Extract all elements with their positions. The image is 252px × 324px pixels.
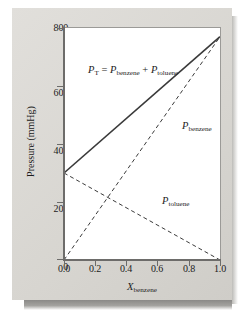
- annotation-toluene-curve-label: Ptoluene: [162, 195, 189, 208]
- data-lines-svg: [64, 28, 220, 260]
- benzene-label-subscript: benzene: [188, 125, 211, 133]
- x-tick-label-0.6: 0.6: [142, 263, 172, 274]
- equation-p-total-subscript: T: [94, 69, 98, 77]
- x-tick-label-0.2: 0.2: [80, 263, 110, 274]
- y-axis-title: Pressure (mmHg): [25, 82, 36, 202]
- figure-root: 0 200 400 600 800 Pressure (mmHg): [0, 0, 252, 324]
- x-axis-line: [63, 259, 221, 261]
- equation-plus: +: [142, 64, 148, 75]
- y-tick-mark-200: [57, 202, 64, 203]
- figure-shadow-bottom: [24, 299, 232, 310]
- x-axis-title: Xbenzene: [64, 281, 220, 294]
- x-tick-label-0.4: 0.4: [111, 263, 141, 274]
- equation-p-benzene-subscript: benzene: [116, 69, 139, 77]
- y-tick-mark-800: [57, 28, 64, 29]
- plot-border-right: [220, 27, 221, 261]
- series-line-toluene: [64, 173, 220, 260]
- y-axis-title-text: Pressure (mmHg): [25, 106, 36, 177]
- y-tick-mark-400: [57, 144, 64, 145]
- x-axis-title-subscript: benzene: [134, 286, 157, 294]
- annotation-equation: PT = Pbenzene + Ptoluene: [88, 64, 178, 77]
- equation-equals: =: [101, 64, 107, 75]
- series-line-total-pressure: [64, 37, 220, 173]
- x-tick-label-1.0: 1.0: [205, 263, 235, 274]
- y-tick-mark-0: [57, 259, 64, 260]
- toluene-label-subscript: toluene: [168, 200, 189, 208]
- y-tick-mark-600: [57, 86, 64, 87]
- equation-p-toluene-subscript: toluene: [157, 69, 178, 77]
- plot-border-top: [64, 27, 221, 28]
- plot-area: PT = Pbenzene + Ptoluene Pbenzene Ptolue…: [64, 28, 220, 260]
- annotation-benzene-curve-label: Pbenzene: [182, 120, 212, 133]
- x-tick-label-0.8: 0.8: [174, 263, 204, 274]
- x-tick-label-0.0: 0.0: [49, 263, 79, 274]
